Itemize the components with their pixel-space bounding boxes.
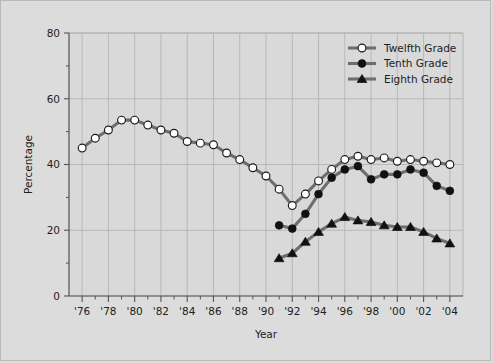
x-tick-label: '78 bbox=[100, 305, 116, 317]
data-point-marker bbox=[380, 154, 388, 162]
x-tick-label: '84 bbox=[179, 305, 196, 317]
y-axis: 020406080 bbox=[47, 27, 69, 302]
data-point-marker bbox=[196, 139, 204, 147]
data-point-marker bbox=[446, 161, 454, 169]
data-point-marker bbox=[433, 182, 441, 190]
data-point-marker bbox=[446, 187, 454, 195]
data-point-marker bbox=[380, 170, 388, 178]
legend: Twelfth GradeTenth GradeEighth Grade bbox=[348, 42, 456, 85]
data-point-marker bbox=[420, 169, 428, 177]
data-point-marker bbox=[367, 175, 375, 183]
x-tick-label: '98 bbox=[363, 305, 379, 317]
data-point-marker bbox=[131, 116, 139, 124]
data-point-marker bbox=[288, 225, 296, 233]
data-point-marker bbox=[302, 210, 310, 218]
y-axis-title-group: Percentage bbox=[22, 135, 34, 194]
data-point-marker bbox=[118, 116, 126, 124]
x-tick-label: '04 bbox=[442, 305, 459, 317]
x-tick-label: '82 bbox=[153, 305, 169, 317]
x-tick-label: '94 bbox=[310, 305, 327, 317]
data-point-marker bbox=[407, 156, 415, 164]
x-tick-label: '86 bbox=[205, 305, 222, 317]
data-point-marker bbox=[275, 185, 283, 193]
data-point-marker bbox=[249, 164, 257, 172]
data-point-marker bbox=[328, 174, 336, 182]
y-tick-label: 0 bbox=[53, 290, 60, 302]
data-point-marker bbox=[91, 134, 99, 142]
data-point-marker bbox=[262, 172, 270, 180]
x-tick-label: '92 bbox=[284, 305, 300, 317]
data-point-marker bbox=[210, 141, 218, 149]
x-tick-label: '00 bbox=[389, 305, 405, 317]
x-tick-label: '90 bbox=[258, 305, 274, 317]
x-tick-label: '80 bbox=[127, 305, 143, 317]
data-point-marker bbox=[358, 44, 366, 52]
data-point-marker bbox=[275, 221, 283, 229]
x-axis-title: Year bbox=[254, 328, 278, 340]
data-point-marker bbox=[341, 166, 349, 174]
x-tick-label: '88 bbox=[232, 305, 248, 317]
y-tick-label: 60 bbox=[47, 93, 60, 105]
data-point-marker bbox=[341, 156, 349, 164]
y-tick-label: 20 bbox=[47, 224, 60, 236]
data-point-marker bbox=[236, 156, 244, 164]
data-point-marker bbox=[144, 121, 152, 129]
data-point-marker bbox=[223, 149, 231, 157]
data-point-marker bbox=[420, 157, 428, 165]
data-point-marker bbox=[183, 138, 191, 146]
legend-label: Twelfth Grade bbox=[383, 42, 456, 54]
data-point-marker bbox=[328, 166, 336, 174]
data-point-marker bbox=[393, 170, 401, 178]
y-axis-title: Percentage bbox=[22, 135, 34, 194]
chart-figure: 020406080'76'78'80'82'84'86'88'90'92'94'… bbox=[0, 0, 493, 363]
data-point-marker bbox=[78, 144, 86, 152]
x-tick-label: '96 bbox=[337, 305, 354, 317]
data-point-marker bbox=[407, 166, 415, 174]
y-tick-label: 40 bbox=[47, 158, 60, 170]
x-tick-label: '02 bbox=[415, 305, 431, 317]
data-point-marker bbox=[315, 190, 323, 198]
data-point-marker bbox=[393, 157, 401, 165]
y-tick-label: 80 bbox=[47, 27, 60, 39]
data-point-marker bbox=[170, 129, 178, 137]
legend-label: Tenth Grade bbox=[383, 57, 448, 69]
data-point-marker bbox=[315, 177, 323, 185]
data-point-marker bbox=[302, 190, 310, 198]
legend-label: Eighth Grade bbox=[384, 73, 453, 85]
x-axis: '76'78'80'82'84'86'88'90'92'94'96'98'00'… bbox=[74, 296, 458, 317]
x-tick-label: '76 bbox=[74, 305, 91, 317]
data-point-marker bbox=[288, 202, 296, 210]
data-point-marker bbox=[433, 159, 441, 167]
data-point-marker bbox=[105, 126, 113, 134]
data-point-marker bbox=[354, 162, 362, 170]
data-point-marker bbox=[157, 126, 165, 134]
line-chart: 020406080'76'78'80'82'84'86'88'90'92'94'… bbox=[0, 0, 493, 363]
data-point-marker bbox=[354, 152, 362, 160]
data-point-marker bbox=[358, 60, 366, 68]
data-point-marker bbox=[367, 156, 375, 164]
